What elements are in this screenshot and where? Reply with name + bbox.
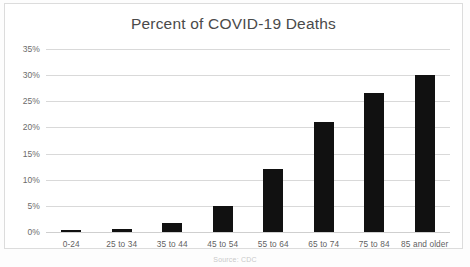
- y-axis-tick-label: 0%: [28, 227, 41, 237]
- x-axis-tick-label: 0-24: [63, 239, 80, 249]
- bar[interactable]: [364, 93, 384, 232]
- chart-title: Percent of COVID-19 Deaths: [5, 15, 462, 33]
- bar-group: 85 and older: [400, 49, 451, 232]
- bar[interactable]: [263, 169, 283, 232]
- bar[interactable]: [112, 229, 132, 232]
- chart-container: Percent of COVID-19 Deaths 0%5%10%15%20%…: [4, 3, 463, 249]
- gridline: [46, 232, 450, 233]
- x-axis-tick-label: 45 to 54: [207, 239, 238, 249]
- bar-group: 45 to 54: [198, 49, 249, 232]
- bar[interactable]: [213, 206, 233, 232]
- bar-group: 35 to 44: [147, 49, 198, 232]
- source-note: Source: CDC: [0, 256, 470, 263]
- bar-group: 55 to 64: [248, 49, 299, 232]
- bar-group: 0-24: [46, 49, 97, 232]
- plot-area: 0%5%10%15%20%25%30%35% 0-2425 to 3435 to…: [46, 49, 450, 232]
- bar[interactable]: [61, 230, 81, 232]
- y-axis-tick-label: 30%: [23, 70, 40, 80]
- y-axis-tick-label: 5%: [28, 201, 41, 211]
- y-axis-tick-label: 20%: [23, 122, 40, 132]
- x-axis-tick-label: 25 to 34: [106, 239, 137, 249]
- y-axis-tick-label: 10%: [23, 175, 40, 185]
- x-axis-tick-label: 55 to 64: [258, 239, 289, 249]
- y-axis-tick-label: 25%: [23, 96, 40, 106]
- x-axis-tick-label: 85 and older: [401, 239, 448, 249]
- scanned-page-background: Percent of COVID-19 Deaths 0%5%10%15%20%…: [0, 0, 470, 267]
- bar[interactable]: [162, 223, 182, 232]
- y-axis-tick-label: 35%: [23, 44, 40, 54]
- bar-group: 65 to 74: [299, 49, 350, 232]
- x-axis-tick-label: 75 to 84: [359, 239, 390, 249]
- bar-group: 25 to 34: [97, 49, 148, 232]
- bar-group: 75 to 84: [349, 49, 400, 232]
- bars-group: 0-2425 to 3435 to 4445 to 5455 to 6465 t…: [46, 49, 450, 232]
- y-axis-tick-label: 15%: [23, 149, 40, 159]
- x-axis-tick-label: 65 to 74: [308, 239, 339, 249]
- bar[interactable]: [314, 122, 334, 232]
- bar[interactable]: [415, 75, 435, 232]
- x-axis-tick-label: 35 to 44: [157, 239, 188, 249]
